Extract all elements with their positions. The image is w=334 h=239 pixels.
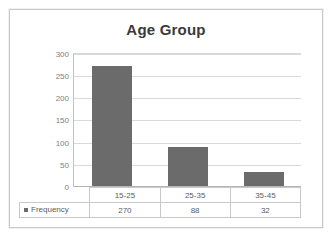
- bar-slot-35-45: [226, 53, 302, 186]
- legend-swatch-icon: [24, 208, 28, 212]
- bar-15-25[interactable]: [92, 66, 132, 186]
- table-value-cell-0: 270: [90, 203, 160, 218]
- table-row-frequency: Frequency 270 88 32: [20, 203, 301, 218]
- legend-entry-frequency[interactable]: Frequency: [20, 203, 90, 218]
- y-tick-label-150: 150: [56, 116, 69, 125]
- y-tick-label-300: 300: [56, 50, 69, 59]
- y-tick-label-50: 50: [60, 161, 69, 170]
- table-value-cell-2: 32: [230, 203, 300, 218]
- chart-title: Age Group: [10, 21, 322, 38]
- y-tick-label-250: 250: [56, 72, 69, 81]
- table-row-categories: 15-25 25-35 35-45: [20, 188, 301, 203]
- table-header-cell-2: 35-45: [230, 188, 300, 203]
- table-corner-cell: [20, 188, 90, 203]
- bar-25-35[interactable]: [168, 147, 208, 186]
- legend-label: Frequency: [31, 206, 69, 215]
- plot-area: 300 250 200 150 100 50 0: [73, 53, 301, 187]
- table-header-cell-1: 25-35: [160, 188, 230, 203]
- chart-frame: Age Group 300 250 200 150 100 50 0 15-: [9, 9, 323, 228]
- table-header-cell-0: 15-25: [90, 188, 160, 203]
- y-tick-label-100: 100: [56, 139, 69, 148]
- chart-data-table: 15-25 25-35 35-45 Frequency 270 88 32: [19, 187, 301, 218]
- bar-slot-25-35: [150, 53, 226, 186]
- table-value-cell-1: 88: [160, 203, 230, 218]
- bar-slot-15-25: [74, 53, 150, 186]
- bar-35-45[interactable]: [244, 172, 284, 186]
- y-tick-label-200: 200: [56, 94, 69, 103]
